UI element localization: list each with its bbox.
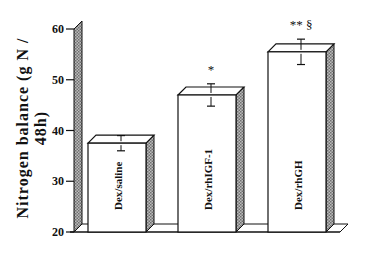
- bar-label: Dex/saline: [112, 162, 124, 210]
- bar-chart: 2030405060 Dex/salineDex/rhIGF-1*Dex/rhG…: [0, 0, 367, 255]
- y-tick-label: 20: [52, 225, 64, 239]
- y-tick-label: 30: [52, 174, 64, 188]
- bar-label: Dex/rhIGF-1: [202, 149, 214, 210]
- bar-1: Dex/saline: [88, 135, 154, 232]
- bar-side: [146, 135, 154, 232]
- y-tick-label: 50: [52, 73, 64, 87]
- bar-side: [236, 87, 244, 232]
- floor-edge: [332, 224, 348, 232]
- y-tick-label: 60: [52, 22, 64, 36]
- significance-marker: ** §: [290, 17, 313, 32]
- bar-3: Dex/rhGH** §: [268, 17, 334, 232]
- bars: Dex/salineDex/rhIGF-1*Dex/rhGH** §: [88, 17, 334, 232]
- bar-label: Dex/rhGH: [292, 160, 304, 210]
- axis-wall: [74, 21, 82, 232]
- significance-marker: *: [208, 62, 215, 77]
- y-tick-label: 40: [52, 124, 64, 138]
- bar-2: Dex/rhIGF-1*: [178, 62, 244, 232]
- bar-side: [326, 44, 334, 232]
